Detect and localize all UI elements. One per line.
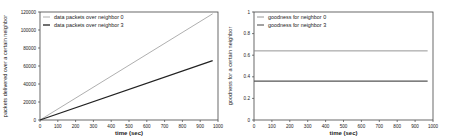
x-tick-label: 600: [143, 124, 151, 129]
x-tick-label: 300: [304, 124, 312, 129]
y-tick-label: 0: [33, 118, 36, 123]
x-tick-label: 100: [54, 124, 62, 129]
x-tick-label: 500: [340, 124, 348, 129]
y-tick-label: 0.2: [244, 96, 251, 101]
legend-label: goodness for neighbor 3: [268, 22, 326, 28]
y-tick-label: 1: [247, 10, 250, 15]
x-tick-label: 300: [90, 124, 98, 129]
legend-label: data packets over neighbor 3: [54, 22, 124, 28]
y-tick-label: 120000: [21, 10, 37, 15]
x-tick-label: 400: [107, 124, 115, 129]
x-tick-label: 700: [375, 124, 383, 129]
x-tick-label: 200: [286, 124, 294, 129]
legend-label: data packets over neighbor 0: [54, 14, 124, 20]
y-tick-label: 0.6: [244, 53, 251, 58]
x-tick-label: 600: [358, 124, 366, 129]
y-tick-label: 40000: [23, 82, 36, 87]
y-tick-label: 100000: [21, 28, 37, 33]
goodness-chart: 0100200300400500600700800900100000.20.40…: [227, 10, 439, 136]
y-tick-label: 0: [247, 118, 250, 123]
y-axis-label: goodness for a certain neighbor: [227, 27, 233, 106]
x-tick-label: 200: [72, 124, 80, 129]
packets-delivered-chart: 0100200300400500600700800900100002000040…: [2, 10, 224, 136]
x-tick-label: 500: [125, 124, 133, 129]
x-tick-label: 400: [322, 124, 330, 129]
x-tick-label: 100: [268, 124, 276, 129]
series-line-1: [40, 61, 213, 120]
x-tick-label: 0: [39, 124, 42, 129]
y-tick-label: 20000: [23, 100, 36, 105]
x-tick-label: 0: [253, 124, 256, 129]
y-tick-label: 0.4: [244, 74, 251, 79]
x-tick-label: 900: [411, 124, 419, 129]
x-axis-label: time (sec): [329, 130, 357, 136]
y-axis-label: packets delivered over a certain neighbo…: [2, 15, 8, 117]
figure: 0100200300400500600700800900100002000040…: [0, 0, 452, 140]
x-tick-label: 1000: [213, 124, 224, 129]
legend-label: goodness for neighbor 0: [268, 14, 326, 20]
y-tick-label: 80000: [23, 46, 36, 51]
plot-frame: [254, 12, 433, 120]
x-tick-label: 1000: [428, 124, 439, 129]
x-tick-label: 800: [393, 124, 401, 129]
x-tick-label: 900: [196, 124, 204, 129]
x-axis-label: time (sec): [115, 130, 143, 136]
x-tick-label: 800: [179, 124, 187, 129]
y-tick-label: 0.8: [244, 31, 251, 36]
series-line-0: [40, 14, 213, 120]
y-tick-label: 60000: [23, 64, 36, 69]
x-tick-label: 700: [161, 124, 169, 129]
